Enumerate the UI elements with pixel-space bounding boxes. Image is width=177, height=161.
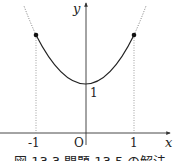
curve-extension-left <box>24 6 36 35</box>
curve <box>36 35 134 84</box>
x-axis-label: x <box>165 135 173 150</box>
curve-extension-right <box>134 6 146 35</box>
endpoint-left <box>34 33 39 38</box>
x-tick-pos1: 1 <box>130 136 138 150</box>
figure-caption: 図 13.3 問題 13.5 の解法 <box>14 154 166 161</box>
origin-label: O <box>74 136 84 150</box>
y-axis-label: y <box>72 1 81 16</box>
x-tick-neg1: -1 <box>28 136 40 150</box>
y-intercept-label: 1 <box>90 86 98 100</box>
endpoint-right <box>132 33 137 38</box>
function-graph: y x O -1 1 1 図 13.3 問題 13.5 の解法 <box>0 0 177 161</box>
